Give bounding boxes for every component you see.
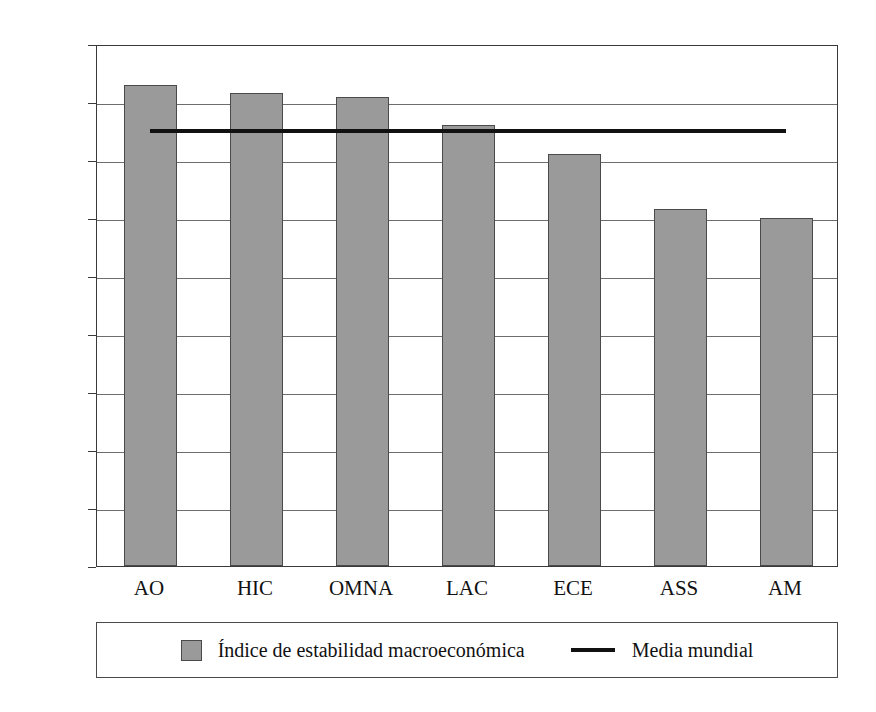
legend-label-index: Índice de estabilidad macroeconómica [218,639,525,661]
bar-ece [548,154,601,566]
y-axis-tick-mark [88,219,96,220]
gridline [97,104,837,105]
x-axis-label-ece: ECE [520,577,626,599]
bar-hic [230,93,283,566]
x-axis-label-lac: LAC [414,577,520,599]
y-axis: 0,900,800,700,600,500,400,300,200,100,00 [0,0,96,712]
x-axis-label-omna: OMNA [308,577,414,599]
y-axis-tick-mark [88,277,96,278]
bar-omna [336,97,389,566]
legend-line-swatch-icon [571,648,615,652]
y-axis-tick-mark [88,567,96,568]
bar-ao [124,85,177,566]
legend-label-world-average: Media mundial [632,639,754,661]
world-average-line [150,129,786,133]
y-axis-tick-mark [88,45,96,46]
x-axis-label-hic: HIC [202,577,308,599]
y-axis-tick-mark [88,161,96,162]
y-axis-tick-mark [88,103,96,104]
plot-area [96,45,838,567]
x-axis-label-ao: AO [96,577,202,599]
bar-am [760,218,813,566]
y-axis-tick-mark [88,451,96,452]
x-axis-label-am: AM [732,577,838,599]
y-axis-tick-mark [88,393,96,394]
y-axis-tick-mark [88,509,96,510]
legend-square-swatch-icon [181,640,202,661]
chart-legend: Índice de estabilidad macroeconómica Med… [96,622,838,678]
chart-figure: 0,900,800,700,600,500,400,300,200,100,00… [0,0,876,712]
x-axis-label-ass: ASS [626,577,732,599]
legend-entry-world-average: Media mundial [571,639,754,661]
bar-ass [654,209,707,566]
y-axis-tick-mark [88,335,96,336]
bar-lac [442,125,495,566]
legend-entry-index: Índice de estabilidad macroeconómica [181,639,525,661]
